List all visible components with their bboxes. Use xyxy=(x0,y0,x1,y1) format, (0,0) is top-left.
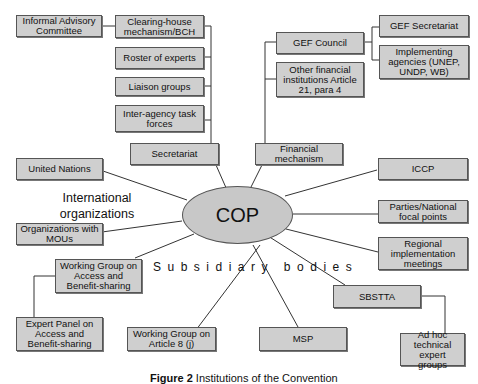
working-group-article-8j-box: Working Group on Article 8 (j) xyxy=(127,327,216,351)
figure-title: Institutions of the Convention xyxy=(196,372,338,384)
iccp-box: ICCP xyxy=(378,158,468,180)
cop-ellipse: COP xyxy=(182,186,293,244)
regional-implementation-meetings-box: Regional implementation meetings xyxy=(378,237,468,270)
clearing-house-mechanism-box: Clearing-house mechanism/BCH xyxy=(115,15,204,38)
expert-panel-abs-box: Expert Panel on Access and Benefit-shari… xyxy=(16,317,103,351)
subsidiary-bodies-label: Subsidiary bodies xyxy=(153,260,358,274)
roster-of-experts-box: Roster of experts xyxy=(115,47,204,69)
working-group-abs-box: Working Group on Access and Benefit-shar… xyxy=(55,259,142,293)
inter-agency-task-forces-box: Inter-agency task forces xyxy=(115,105,204,132)
sbstta-box: SBSTTA xyxy=(333,285,421,308)
gef-secretariat-box: GEF Secretariat xyxy=(379,15,469,37)
other-financial-institutions-box: Other financial institutions Article 21,… xyxy=(276,62,364,97)
liaison-groups-box: Liaison groups xyxy=(115,77,204,96)
secretariat-box: Secretariat xyxy=(130,143,219,165)
organizations-with-mous-box: Organizations with MOUs xyxy=(16,223,103,245)
united-nations-box: United Nations xyxy=(16,158,103,180)
figure-caption: Figure 2 Institutions of the Convention xyxy=(150,372,338,384)
implementing-agencies-box: Implementing agencies (UNEP, UNDP, WB) xyxy=(379,45,469,79)
financial-mechanism-box: Financial mechanism xyxy=(255,143,343,165)
informal-advisory-committee-box: Informal Advisory Committee xyxy=(16,15,102,37)
ad-hoc-technical-expert-groups-box: Ad hoc technical expert groups xyxy=(400,333,465,366)
gef-council-box: GEF Council xyxy=(276,32,364,54)
parties-national-focal-points-box: Parties/National focal points xyxy=(378,200,468,223)
msp-box: MSP xyxy=(259,327,347,351)
figure-number: Figure 2 xyxy=(150,372,193,384)
international-organizations-label: International organizations xyxy=(36,190,158,222)
